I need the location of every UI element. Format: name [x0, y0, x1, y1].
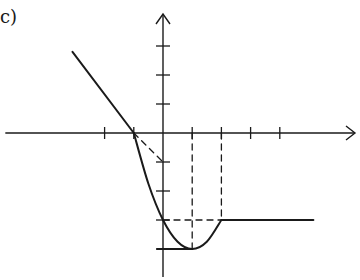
f-linear-left [72, 52, 133, 133]
function-graph [0, 0, 360, 280]
f-curve [134, 133, 222, 249]
